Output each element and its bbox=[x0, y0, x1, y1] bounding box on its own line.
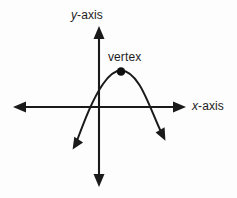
vertex-point-marker bbox=[117, 67, 126, 76]
y-axis-label-suffix: -axis bbox=[77, 8, 103, 22]
vertex-label: vertex bbox=[108, 51, 141, 64]
x-axis-label-suffix: -axis bbox=[198, 99, 224, 113]
y-axis-label: y-axis bbox=[71, 9, 103, 22]
y-axis-top-arrowhead bbox=[94, 26, 105, 39]
x-axis-left-arrowhead bbox=[13, 102, 26, 113]
x-axis-label: x-axis bbox=[192, 100, 224, 113]
parabola-figure: y-axis x-axis vertex bbox=[0, 0, 237, 198]
x-axis-right-arrowhead bbox=[173, 102, 186, 113]
parabola-group bbox=[73, 71, 166, 150]
y-axis-bottom-arrowhead bbox=[94, 174, 105, 187]
